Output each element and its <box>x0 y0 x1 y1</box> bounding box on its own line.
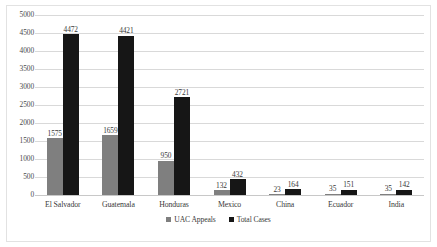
y-axis-tick-label: 3500 <box>6 65 34 72</box>
bar[interactable]: 4472 <box>63 34 79 195</box>
bar-slot: 2721 <box>174 15 190 195</box>
bar-value-label: 432 <box>232 171 243 178</box>
bar-value-label: 950 <box>161 152 172 159</box>
bar-value-label: 1575 <box>48 130 62 137</box>
bar[interactable]: 35 <box>380 194 396 195</box>
bar-value-label: 4421 <box>119 27 133 34</box>
bar-value-label: 4472 <box>64 26 78 33</box>
bar-value-label: 1659 <box>103 127 117 134</box>
bar[interactable]: 1575 <box>47 138 63 195</box>
bar[interactable]: 2721 <box>174 97 190 195</box>
bar-value-label: 2721 <box>175 89 189 96</box>
bar-slot: 23 <box>269 15 285 195</box>
legend-swatch-icon <box>166 217 171 222</box>
bar-slot: 35 <box>325 15 341 195</box>
bar-slot: 151 <box>341 15 357 195</box>
x-axis-category-label: India <box>368 197 424 213</box>
bar-group: 16594421 <box>91 15 147 195</box>
y-axis-tick-label: 2500 <box>6 101 34 108</box>
bar[interactable]: 432 <box>230 179 246 195</box>
bar[interactable]: 1659 <box>102 135 118 195</box>
legend-item[interactable]: Total Cases <box>229 216 271 224</box>
bar-slot: 1659 <box>102 15 118 195</box>
bar[interactable]: 142 <box>396 190 412 195</box>
bar-value-label: 35 <box>385 185 392 192</box>
chart-container: 5000450040003500300025002000150010005000… <box>0 0 437 247</box>
y-axis-tick-label: 0 <box>6 191 34 198</box>
bar-value-label: 142 <box>399 181 410 188</box>
y-axis-tick-label: 4000 <box>6 47 34 54</box>
x-axis-category-label: Guatemala <box>91 197 147 213</box>
bar-value-label: 164 <box>288 181 299 188</box>
x-axis-category-label: China <box>257 197 313 213</box>
bar-group: 132432 <box>202 15 258 195</box>
y-axis-tick-label: 4500 <box>6 29 34 36</box>
bar-slot: 164 <box>285 15 301 195</box>
plot-area: 1575447216594421950272113243223164351513… <box>35 15 424 195</box>
bar-group: 35151 <box>313 15 369 195</box>
x-axis-category-label: Mexico <box>202 197 258 213</box>
legend-swatch-icon <box>229 217 234 222</box>
bar-value-label: 23 <box>273 186 280 193</box>
bar-value-label: 132 <box>216 182 227 189</box>
bar[interactable]: 151 <box>341 190 357 195</box>
bar-group: 9502721 <box>146 15 202 195</box>
bar-group: 23164 <box>257 15 313 195</box>
bar-slot: 950 <box>158 15 174 195</box>
y-axis: 5000450040003500300025002000150010005000 <box>6 15 34 195</box>
bar-slot: 4472 <box>63 15 79 195</box>
legend-label: UAC Appeals <box>174 216 215 224</box>
x-axis-category-label: El Salvador <box>35 197 91 213</box>
legend-label: Total Cases <box>237 216 271 224</box>
bar[interactable]: 950 <box>158 161 174 195</box>
chart-legend: UAC AppealsTotal Cases <box>0 216 437 224</box>
x-axis: El SalvadorGuatemalaHondurasMexicoChinaE… <box>35 197 424 213</box>
bar-slot: 132 <box>214 15 230 195</box>
y-axis-tick-label: 2000 <box>6 119 34 126</box>
legend-item[interactable]: UAC Appeals <box>166 216 215 224</box>
bar[interactable]: 23 <box>269 194 285 195</box>
bar-slot: 432 <box>230 15 246 195</box>
bar-slot: 1575 <box>47 15 63 195</box>
bar-slot: 35 <box>380 15 396 195</box>
bar[interactable]: 35 <box>325 194 341 195</box>
bar-slot: 4421 <box>118 15 134 195</box>
bar[interactable]: 164 <box>285 189 301 195</box>
bar[interactable]: 132 <box>214 190 230 195</box>
bar-group: 15754472 <box>35 15 91 195</box>
y-axis-tick-label: 3000 <box>6 83 34 90</box>
bar-group: 35142 <box>368 15 424 195</box>
bar[interactable]: 4421 <box>118 36 134 195</box>
x-axis-category-label: Honduras <box>146 197 202 213</box>
bar-groups: 1575447216594421950272113243223164351513… <box>35 15 424 195</box>
x-axis-line <box>35 195 424 196</box>
x-axis-category-label: Ecuador <box>313 197 369 213</box>
y-axis-tick-label: 1000 <box>6 155 34 162</box>
bar-slot: 142 <box>396 15 412 195</box>
y-axis-tick-label: 5000 <box>6 11 34 18</box>
y-axis-tick-label: 500 <box>6 173 34 180</box>
bar-value-label: 35 <box>329 185 336 192</box>
y-axis-tick-label: 1500 <box>6 137 34 144</box>
bar-value-label: 151 <box>343 181 354 188</box>
